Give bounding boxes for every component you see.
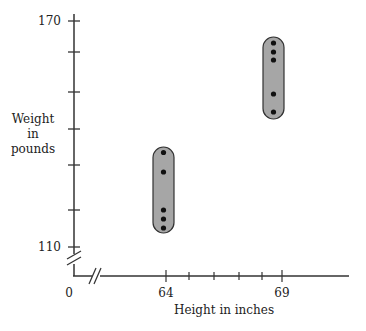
data-point — [271, 57, 276, 62]
data-point — [271, 49, 276, 54]
data-point — [161, 225, 166, 230]
y-axis-title: Weight in pounds — [3, 112, 63, 157]
scatter-chart: 170 110 0 64 69 Height in inches — [0, 0, 366, 331]
x-axis-title: Height in inches — [174, 303, 274, 317]
y-tick-label-170: 170 — [38, 14, 61, 28]
data-point — [271, 91, 276, 96]
y-axis-title-line-1: Weight — [3, 112, 63, 127]
data-point — [161, 207, 166, 212]
data-point — [161, 150, 166, 155]
group-64-highlight — [153, 147, 174, 233]
data-point — [161, 216, 166, 221]
x-tick-label-0: 0 — [65, 286, 73, 300]
x-tick-label-69: 69 — [274, 286, 289, 300]
data-point — [271, 40, 276, 45]
data-point — [271, 109, 276, 114]
y-axis-title-line-3: pounds — [3, 142, 63, 157]
y-tick-label-110: 110 — [38, 240, 61, 254]
group-69-highlight — [263, 37, 284, 119]
data-point — [161, 169, 166, 174]
y-axis-title-line-2: in — [3, 127, 63, 142]
x-tick-label-64: 64 — [158, 286, 174, 300]
